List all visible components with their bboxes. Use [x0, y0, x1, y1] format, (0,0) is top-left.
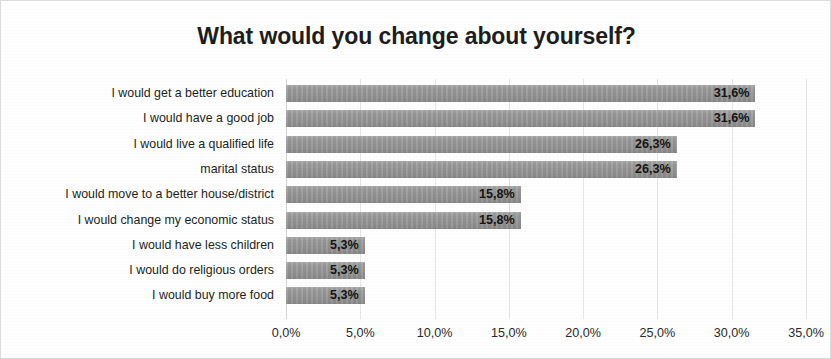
category-label: I would buy more food	[152, 283, 274, 308]
bar-value-label: 26,3%	[635, 161, 671, 178]
bar-row: I would have less children5,3%	[286, 233, 806, 258]
chart-container: What would you change about yourself? I …	[0, 0, 831, 359]
x-tick-label: 20,0%	[565, 326, 601, 340]
chart-title: What would you change about yourself?	[1, 23, 831, 50]
bar-value-label: 26,3%	[635, 136, 671, 153]
bar: 15,8%	[286, 186, 521, 203]
bar-value-label: 5,3%	[330, 262, 359, 279]
gridline-35	[806, 79, 807, 319]
bar: 5,3%	[286, 287, 365, 304]
category-label: I would do religious orders	[129, 258, 274, 283]
bar-row: I would do religious orders5,3%	[286, 258, 806, 283]
bar-value-label: 31,6%	[714, 110, 750, 127]
category-label: I would change my economic status	[78, 208, 274, 233]
category-label: I would live a qualified life	[133, 132, 274, 157]
category-label: I would have a good job	[143, 106, 274, 131]
bar-row: I would have a good job31,6%	[286, 106, 806, 131]
x-tick-label: 35,0%	[788, 326, 824, 340]
bar: 26,3%	[286, 161, 677, 178]
category-label: I would move to a better house/district	[65, 182, 274, 207]
bar: 5,3%	[286, 237, 365, 254]
x-tick-label: 25,0%	[640, 326, 676, 340]
bar-rows: I would get a better education31,6%I wou…	[286, 79, 806, 319]
bar: 15,8%	[286, 212, 521, 229]
bar-value-label: 31,6%	[714, 85, 750, 102]
x-tick-label: 5,0%	[346, 326, 375, 340]
x-tick-label: 15,0%	[491, 326, 527, 340]
x-tick-label: 30,0%	[714, 326, 750, 340]
bar: 31,6%	[286, 110, 755, 127]
bar-row: I would move to a better house/district1…	[286, 182, 806, 207]
bar: 31,6%	[286, 85, 755, 102]
bar-value-label: 15,8%	[479, 186, 515, 203]
category-label: I would get a better education	[111, 81, 274, 106]
bar-row: marital status26,3%	[286, 157, 806, 182]
bar-row: I would change my economic status15,8%	[286, 208, 806, 233]
category-label: marital status	[200, 157, 274, 182]
bar: 5,3%	[286, 262, 365, 279]
x-tick-label: 0,0%	[272, 326, 301, 340]
bar: 26,3%	[286, 136, 677, 153]
plot-area: I would get a better education31,6%I wou…	[286, 79, 806, 319]
bar-value-label: 5,3%	[330, 237, 359, 254]
bar-row: I would get a better education31,6%	[286, 81, 806, 106]
category-label: I would have less children	[132, 233, 274, 258]
x-axis-tick-labels: 0,0%5,0%10,0%15,0%20,0%25,0%30,0%35,0%	[286, 326, 806, 346]
bar-value-label: 15,8%	[479, 212, 515, 229]
bar-row: I would buy more food5,3%	[286, 283, 806, 308]
bar-value-label: 5,3%	[330, 287, 359, 304]
x-tick-label: 10,0%	[417, 326, 453, 340]
bar-row: I would live a qualified life26,3%	[286, 132, 806, 157]
